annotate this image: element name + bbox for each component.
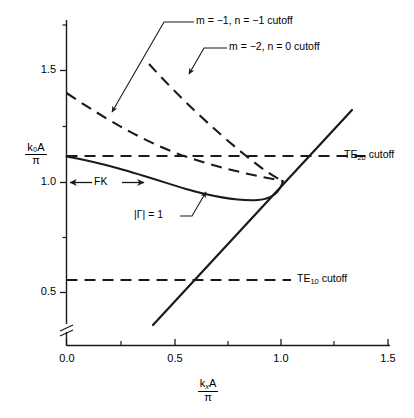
- y-axis-title-denominator: π: [25, 155, 46, 167]
- annotation-m-1-n-1-label: m = −1, n = −1 cutoff: [196, 15, 293, 27]
- x-axis-title-denominator: π: [198, 392, 219, 404]
- y-axis-title-numerator: k₀A: [25, 142, 46, 155]
- te10-subscript: 10: [310, 277, 318, 286]
- annotation-te10-label: TE10 cutoff: [297, 273, 347, 286]
- chart-figure: k₀A π kxA π 1.5 1.0 0.5 0.0 0.5 1.0 1.5 …: [0, 0, 414, 418]
- series-m-1-n-1-cutoff: [67, 93, 284, 181]
- te20-suffix: cutoff: [366, 148, 394, 160]
- te10-suffix: cutoff: [319, 272, 347, 284]
- x-axis-title-numerator: kxA: [198, 378, 219, 392]
- y-axis-title: k₀A π: [14, 142, 58, 166]
- x-axis-title: kxA π: [183, 378, 233, 403]
- y-tick-label-1-0: 1.0: [28, 175, 56, 187]
- x-axis-A: A: [209, 377, 216, 389]
- annotation-m-2-n-0-label: m = −2, n = 0 cutoff: [229, 41, 320, 53]
- x-tick-label-0-5: 0.5: [160, 352, 190, 364]
- annotation-gamma-label: |Γ| = 1: [134, 209, 163, 221]
- leader-gamma: [180, 192, 206, 216]
- series-light-line: [153, 110, 352, 325]
- x-tick-label-1-5: 1.5: [373, 352, 403, 364]
- y-tick-label-1-5: 1.5: [28, 63, 56, 75]
- te20-prefix: TE: [344, 148, 357, 160]
- axes: [60, 20, 390, 346]
- x-tick-label-1-0: 1.0: [266, 352, 296, 364]
- series-m-2-n-0-cutoff: [149, 64, 283, 181]
- annotation-fk-label: FK: [94, 176, 107, 188]
- x-tick-label-0-0: 0.0: [52, 352, 82, 364]
- te10-prefix: TE: [297, 272, 310, 284]
- leader-m-2-n-0: [189, 48, 227, 74]
- annotation-te20-label: TE20 cutoff: [344, 149, 394, 162]
- te20-subscript: 20: [357, 153, 365, 162]
- y-tick-label-0-5: 0.5: [28, 285, 56, 297]
